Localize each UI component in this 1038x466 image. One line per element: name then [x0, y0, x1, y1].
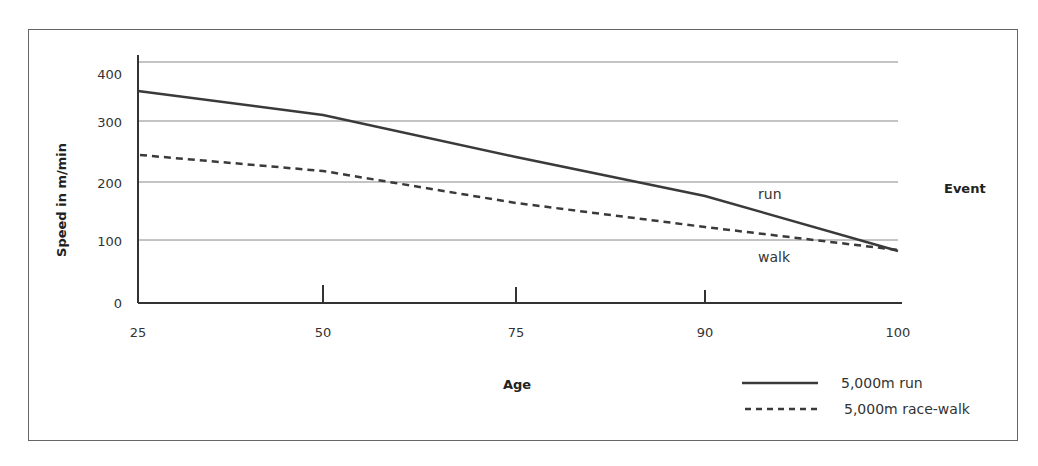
- y-tick-300: 300: [97, 115, 122, 130]
- legend: 5,000m run 5,000m race-walk: [742, 375, 971, 417]
- series-race-walk: [140, 155, 898, 250]
- x-axis-title: Age: [503, 377, 531, 392]
- series-run: [138, 91, 898, 251]
- x-tick-100: 100: [886, 325, 911, 340]
- line-chart: 400 300 200 100 0 25 50 75 90 100 Speed …: [0, 0, 1038, 466]
- x-axis-ticks: [323, 285, 705, 303]
- legend-title-event: Event: [944, 181, 986, 196]
- x-tick-90: 90: [697, 325, 714, 340]
- x-tick-75: 75: [508, 325, 525, 340]
- y-tick-200: 200: [97, 176, 122, 191]
- y-axis-title: Speed in m/min: [54, 143, 69, 257]
- y-tick-100: 100: [97, 234, 122, 249]
- x-tick-25: 25: [130, 325, 147, 340]
- y-tick-400: 400: [97, 67, 122, 82]
- annotation-run: run: [758, 186, 782, 202]
- legend-label-walk: 5,000m race-walk: [844, 401, 971, 417]
- gridlines: [138, 62, 898, 240]
- x-tick-50: 50: [315, 325, 332, 340]
- legend-label-run: 5,000m run: [841, 375, 923, 391]
- annotation-walk: walk: [758, 249, 791, 265]
- y-tick-0: 0: [114, 296, 122, 311]
